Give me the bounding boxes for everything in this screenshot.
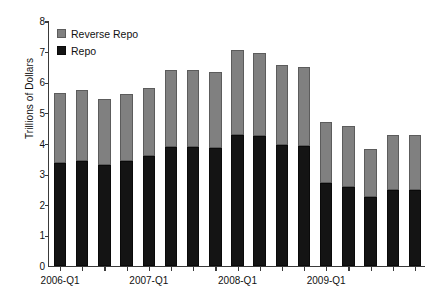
x-tick-mark [127, 266, 128, 271]
y-tick-label: 5 [1, 108, 45, 120]
y-tick-label: 6 [1, 77, 45, 89]
bar-stack [120, 94, 132, 266]
y-tick-label: 2 [1, 200, 45, 212]
bar-segment-repo [342, 187, 354, 266]
bar-segment-reverse-repo [320, 122, 332, 182]
bar-segment-reverse-repo [298, 67, 310, 146]
bar-segment-repo [253, 136, 265, 266]
y-tick-mark [45, 52, 49, 53]
bar-segment-repo [364, 197, 376, 266]
repo-swatch-icon [57, 46, 66, 55]
legend-item-repo: Repo [57, 43, 138, 58]
bar-segment-repo [320, 183, 332, 266]
bar-stack [209, 72, 221, 266]
bar-stack [76, 90, 88, 266]
y-tick-mark [45, 144, 49, 145]
y-tick-label: 0 [1, 261, 45, 273]
bar-segment-reverse-repo [209, 72, 221, 149]
x-tick-label: 2009-Q1 [307, 275, 346, 286]
bar-stack [165, 70, 177, 266]
bar-segment-reverse-repo [276, 65, 288, 145]
x-tick-mark [82, 266, 83, 271]
x-tick-mark [260, 266, 261, 271]
y-tick-mark [45, 175, 49, 176]
bar-segment-repo [187, 147, 199, 266]
x-tick-mark [304, 266, 305, 271]
bar-segment-repo [231, 135, 243, 266]
y-tick-mark [45, 83, 49, 84]
bar-segment-repo [209, 148, 221, 266]
x-tick-mark [393, 266, 394, 271]
bar-stack [54, 93, 66, 266]
bar-segment-reverse-repo [165, 70, 177, 147]
bar-segment-reverse-repo [98, 99, 110, 164]
y-tick-label: 4 [1, 139, 45, 151]
bar-stack [187, 70, 199, 266]
bar-segment-repo [120, 161, 132, 266]
bar-segment-repo [54, 163, 66, 267]
bar-stack [298, 67, 310, 266]
bar-segment-reverse-repo [387, 135, 399, 190]
y-tick-mark [45, 21, 49, 22]
x-tick-label: 2008-Q1 [218, 275, 257, 286]
legend-label-repo: Repo [71, 45, 96, 57]
bar-segment-reverse-repo [342, 126, 354, 187]
x-tick-mark [215, 266, 216, 271]
chart-legend: Reverse Repo Repo [57, 26, 138, 60]
x-tick-mark [415, 266, 416, 271]
bar-segment-reverse-repo [120, 94, 132, 160]
x-tick-mark [60, 266, 61, 271]
y-tick-label: 1 [1, 230, 45, 242]
bar-stack [143, 88, 155, 266]
bar-segment-repo [276, 145, 288, 266]
x-tick-mark [348, 266, 349, 271]
bar-stack [98, 99, 110, 266]
y-tick-mark [45, 236, 49, 237]
bar-segment-reverse-repo [231, 50, 243, 135]
bar-stack [409, 135, 421, 266]
bar-segment-reverse-repo [76, 90, 88, 161]
x-tick-mark [193, 266, 194, 271]
bar-segment-repo [298, 146, 310, 266]
bar-segment-reverse-repo [364, 149, 376, 197]
bar-stack [320, 122, 332, 266]
x-tick-mark [326, 266, 327, 271]
x-tick-label: 2007-Q1 [129, 275, 168, 286]
bar-segment-reverse-repo [143, 88, 155, 156]
legend-item-reverse-repo: Reverse Repo [57, 26, 138, 41]
y-tick-mark [45, 205, 49, 206]
bar-segment-repo [387, 190, 399, 266]
x-tick-mark [149, 266, 150, 271]
bar-stack [342, 126, 354, 266]
bar-stack [364, 149, 376, 266]
legend-label-reverse-repo: Reverse Repo [71, 28, 138, 40]
bar-segment-repo [165, 147, 177, 266]
x-tick-mark [371, 266, 372, 271]
stacked-bar-chart: Trillions of Dollars 0123456782006-Q1200… [0, 0, 430, 300]
bar-segment-repo [409, 190, 421, 266]
bar-segment-reverse-repo [187, 70, 199, 147]
bar-segment-repo [98, 165, 110, 266]
x-tick-mark [171, 266, 172, 271]
x-tick-mark [282, 266, 283, 271]
bar-segment-repo [143, 156, 155, 266]
x-tick-label: 2006-Q1 [41, 275, 80, 286]
bar-segment-reverse-repo [409, 135, 421, 190]
y-axis-title: Trillions of Dollars [24, 14, 35, 184]
bar-stack [231, 50, 243, 266]
y-tick-label: 7 [1, 47, 45, 59]
bar-stack [387, 135, 399, 266]
y-tick-mark [45, 113, 49, 114]
bar-segment-repo [76, 161, 88, 266]
bar-segment-reverse-repo [54, 93, 66, 163]
x-tick-mark [238, 266, 239, 271]
bar-stack [253, 53, 265, 266]
bar-segment-reverse-repo [253, 53, 265, 137]
y-tick-label: 8 [1, 16, 45, 28]
x-tick-mark [104, 266, 105, 271]
y-tick-label: 3 [1, 169, 45, 181]
bar-stack [276, 65, 288, 266]
reverse-repo-swatch-icon [57, 29, 66, 38]
